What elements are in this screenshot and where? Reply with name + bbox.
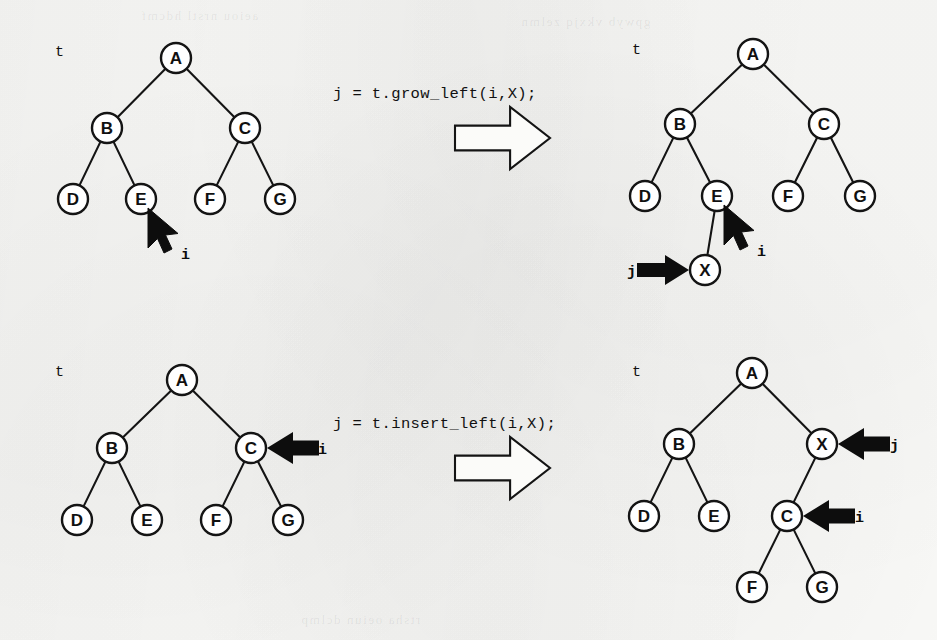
tree-node-label-E: E [708, 507, 719, 526]
pointer-j-bottom-right-label: j [890, 438, 899, 455]
tree-edge-A-X [762, 383, 812, 434]
pointer-j-bottom-right-arrow-icon [838, 428, 890, 460]
tree-node-label-G: G [815, 578, 828, 597]
tree-node-label-C: C [781, 507, 793, 526]
tree-node-label-C: C [239, 119, 251, 138]
tree-edge-A-C [763, 64, 814, 114]
tree-edge-X-C [793, 457, 816, 504]
pointer-i-bottom-right-label: i [855, 510, 864, 527]
tree-edge-A-B [117, 68, 166, 118]
block-arrow-bottom-icon [455, 437, 550, 499]
tree-edge-C-G [251, 141, 274, 187]
tree-edge-C-G [257, 461, 281, 508]
tree-edge-B-D [79, 141, 101, 187]
block-arrow-top-icon [455, 107, 550, 169]
tree-node-label-B: B [674, 115, 686, 134]
caption-grow-left: j = t.grow_left(i,X); [333, 85, 537, 103]
tree-node-label-B: B [106, 439, 118, 458]
tree-node-label-F: F [211, 511, 221, 530]
tree-node-label-A: A [170, 49, 182, 68]
tree-edge-B-D [83, 461, 106, 508]
figure-page: aeiou nrstl hdcmf gpwyb vkxjq zelmn rtsh… [0, 0, 937, 640]
tree-node-label-E: E [141, 511, 152, 530]
tree-name-label: t [632, 364, 641, 381]
tree-edge-B-E [685, 457, 708, 504]
tree-node-label-A: A [747, 45, 759, 64]
tree-edge-A-B [689, 383, 742, 434]
tree-node-label-E: E [135, 190, 146, 209]
tree-node-label-D: D [639, 187, 651, 206]
panel-top-left: tABCDEFGi [55, 43, 295, 264]
tree-edge-B-E [113, 141, 135, 187]
pointer-i-top-right-label: i [757, 244, 766, 261]
tree-node-label-D: D [638, 507, 650, 526]
tree-node-label-A: A [176, 371, 188, 390]
tree-node-label-F: F [747, 578, 757, 597]
tree-edge-A-C [192, 390, 241, 438]
tree-node-label-F: F [783, 187, 793, 206]
tree-node-label-C: C [245, 439, 257, 458]
pointer-i-top-right-cursor-icon [724, 205, 754, 250]
caption-insert-left: j = t.insert_left(i,X); [333, 415, 556, 433]
tree-edge-C-F [758, 529, 781, 575]
tree-node-label-G: G [281, 511, 294, 530]
tree-edge-C-F [794, 137, 817, 184]
tree-node-label-A: A [746, 364, 758, 383]
tree-node-label-X: X [699, 261, 711, 280]
panel-bottom-right: tABXDECFGji [629, 358, 899, 602]
tree-node-label-B: B [101, 119, 113, 138]
tree-node-label-G: G [273, 190, 286, 209]
pointer-i-bottom-left-label: i [318, 442, 327, 459]
panel-bottom-left: tABCDEFGi [55, 364, 327, 536]
tree-node-label-F: F [205, 190, 215, 209]
tree-edge-B-E [118, 461, 141, 508]
tree-node-label-C: C [818, 115, 830, 134]
tree-name-label: t [632, 42, 641, 59]
tree-node-label-E: E [711, 187, 722, 206]
pointer-j-top-right-label: j [627, 264, 636, 281]
tree-name-label: t [55, 364, 64, 381]
tree-name-label: t [55, 44, 64, 61]
pointer-j-top-right-arrow-icon [637, 255, 689, 285]
tree-edge-C-F [216, 141, 239, 187]
tree-edge-C-G [793, 529, 816, 575]
tree-edge-E-X [707, 210, 715, 256]
tree-node-label-G: G [853, 187, 866, 206]
tree-edge-C-F [222, 461, 245, 508]
pointer-i-top-left-cursor-icon [148, 208, 178, 253]
tree-edge-B-D [651, 137, 674, 184]
tree-edge-A-B [690, 64, 743, 115]
pointer-i-bottom-right-arrow-icon [803, 500, 855, 532]
tree-edge-C-G [830, 137, 853, 184]
pointer-i-bottom-left-arrow-icon [267, 432, 319, 464]
tree-edge-B-D [650, 457, 673, 504]
tree-edge-B-E [686, 137, 710, 184]
tree-node-label-X: X [816, 435, 828, 454]
tree-node-label-D: D [67, 190, 79, 209]
pointer-i-top-left-label: i [181, 247, 190, 264]
tree-node-label-D: D [71, 511, 83, 530]
panel-top-right: tABCDEFGXij [627, 39, 875, 285]
tree-edge-A-B [122, 390, 172, 438]
tree-edge-A-C [186, 68, 235, 118]
tree-node-label-B: B [673, 435, 685, 454]
